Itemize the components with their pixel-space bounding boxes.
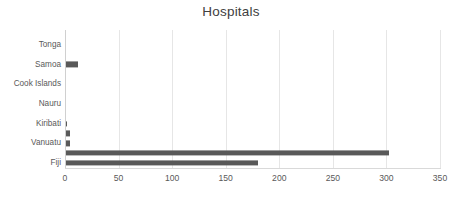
x-tick-label: 250 — [313, 172, 353, 184]
bar-row[interactable] — [65, 109, 440, 119]
category-axis-line — [65, 30, 66, 168]
category-label: Fiji — [1, 158, 61, 168]
x-tick-label: 150 — [206, 172, 246, 184]
bar-row[interactable] — [65, 50, 440, 60]
bar-row[interactable] — [65, 99, 440, 109]
value-axis-tick-labels: 050100150200250300350 — [0, 172, 462, 188]
x-tick-label: 0 — [45, 172, 85, 184]
x-tick-label: 200 — [259, 172, 299, 184]
bar-row[interactable] — [65, 148, 440, 158]
value-axis-line — [65, 168, 441, 169]
bar-row[interactable] — [65, 119, 440, 129]
bar[interactable] — [65, 62, 78, 67]
chart-title: Hospitals — [0, 4, 462, 19]
x-tick-label: 300 — [366, 172, 406, 184]
category-axis-labels: TongaSamoaCook IslandsNauruKiribatiVanua… — [0, 30, 61, 168]
hospitals-bar-chart: Hospitals TongaSamoaCook IslandsNauruKir… — [0, 0, 462, 198]
x-tick-label: 350 — [420, 172, 460, 184]
x-tick-label: 100 — [152, 172, 192, 184]
category-label: Kiribati — [1, 119, 61, 129]
bar-row[interactable] — [65, 89, 440, 99]
bar-row[interactable] — [65, 138, 440, 148]
category-label: Cook Islands — [1, 79, 61, 89]
gridline-350 — [440, 30, 441, 168]
bar-row[interactable] — [65, 30, 440, 40]
plot-area — [65, 30, 440, 168]
bar[interactable] — [65, 151, 389, 156]
bar-row[interactable] — [65, 60, 440, 70]
bar-row[interactable] — [65, 129, 440, 139]
x-tick-label: 50 — [99, 172, 139, 184]
bar-row[interactable] — [65, 69, 440, 79]
bar-row[interactable] — [65, 40, 440, 50]
category-label: Nauru — [1, 99, 61, 109]
category-label: Vanuatu — [1, 138, 61, 148]
bar-row[interactable] — [65, 79, 440, 89]
category-label: Tonga — [1, 40, 61, 50]
bar[interactable] — [65, 160, 258, 165]
category-label: Samoa — [1, 60, 61, 70]
bar-row[interactable] — [65, 158, 440, 168]
